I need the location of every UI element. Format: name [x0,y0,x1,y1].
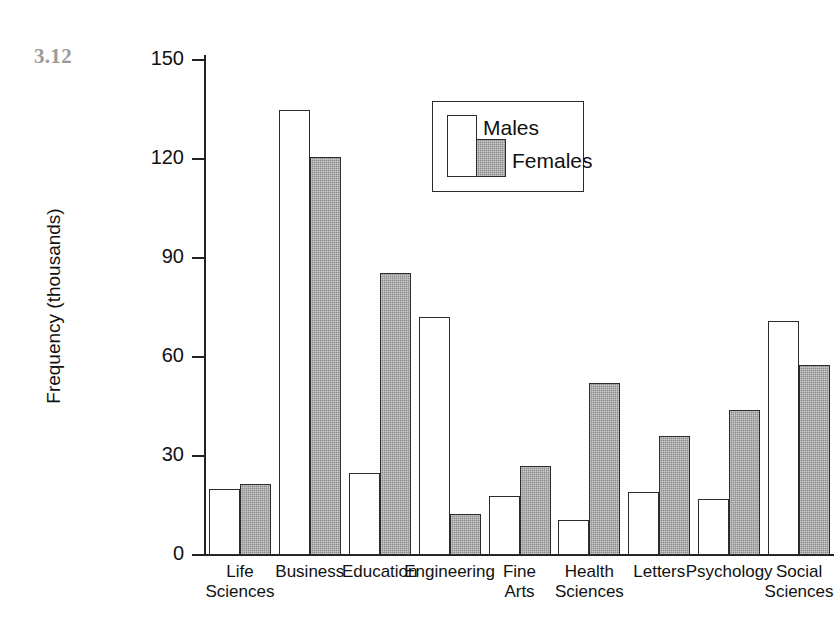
bar-males[interactable] [768,321,799,555]
bar-females[interactable] [589,383,620,555]
bar-females[interactable] [450,514,481,555]
x-axis-category-label-line: Sciences [739,582,839,602]
bar-females[interactable] [240,484,271,555]
legend-label-males: Males [483,116,539,140]
bar-females[interactable] [520,466,551,555]
bar-group [628,55,690,555]
bar-group [768,55,830,555]
bar-males[interactable] [558,520,589,555]
bar-group [279,55,341,555]
x-axis-category-label-line: Sciences [529,582,649,602]
bar-group [209,55,271,555]
bar-females[interactable] [729,410,760,555]
bar-males[interactable] [209,489,240,555]
legend-label-females: Females [512,149,593,173]
bar-group [698,55,760,555]
bars-layer [0,0,839,642]
bar-males[interactable] [279,110,310,556]
legend-swatch-females [476,139,506,177]
x-axis-category-label: SocialSciences [739,562,839,602]
bar-males[interactable] [698,499,729,555]
bar-females[interactable] [310,157,341,555]
legend-swatch-males [447,115,477,177]
bar-group [349,55,411,555]
bar-males[interactable] [489,496,520,555]
bar-males[interactable] [349,473,380,556]
bar-females[interactable] [380,273,411,555]
x-axis-category-label-line: Sciences [180,582,300,602]
legend: Males Females [432,101,584,192]
bar-males[interactable] [419,317,450,555]
bar-males[interactable] [628,492,659,555]
bar-females[interactable] [659,436,690,555]
figure-root: 3.12 Frequency (thousands) 0306090120150… [0,0,839,642]
bar-females[interactable] [799,365,830,555]
x-axis-category-label-line: Social [739,562,839,582]
